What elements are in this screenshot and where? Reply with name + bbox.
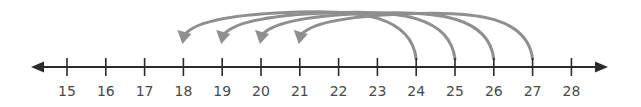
tick-label: 22 [330,83,348,99]
tick-label: 17 [136,83,154,99]
ticks: 1516171819202122232425262728 [58,58,580,99]
number-line-svg: 1516171819202122232425262728 [0,0,641,107]
tick-label: 24 [407,83,425,99]
tick-label: 21 [291,83,309,99]
tick-label: 20 [252,83,270,99]
right-arrow-icon [595,62,608,73]
tick-label: 15 [58,83,76,99]
jump-arcs [177,12,532,59]
tick-label: 16 [97,83,115,99]
number-line-diagram: 1516171819202122232425262728 [0,0,641,107]
axis [31,62,608,73]
tick-label: 27 [524,83,542,99]
tick-label: 26 [485,83,503,99]
tick-label: 28 [562,83,580,99]
tick-label: 19 [213,83,231,99]
tick-label: 18 [174,83,192,99]
left-arrow-icon [31,62,44,73]
tick-label: 23 [368,83,386,99]
tick-label: 25 [446,83,464,99]
